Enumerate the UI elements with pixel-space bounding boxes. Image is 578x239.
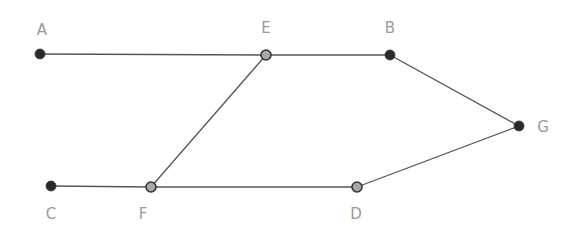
node-F [146, 182, 156, 192]
node-B [385, 50, 395, 60]
node-G [514, 121, 524, 131]
graph-canvas: AEBGCFD [0, 0, 578, 239]
node-label-D: D [350, 205, 362, 223]
edge-F-C [51, 186, 151, 187]
graph-diagram: AEBGCFD [0, 0, 578, 239]
node-C [46, 181, 56, 191]
edges-layer [40, 54, 519, 187]
node-label-F: F [139, 205, 148, 223]
node-label-A: A [37, 21, 48, 39]
node-E [261, 50, 271, 60]
edge-G-D [357, 126, 519, 187]
node-D [352, 182, 362, 192]
node-label-G: G [537, 118, 549, 136]
labels-layer: AEBGCFD [37, 19, 549, 223]
node-A [35, 49, 45, 59]
node-label-B: B [385, 19, 395, 37]
node-label-E: E [261, 19, 270, 37]
edge-B-G [390, 55, 519, 126]
node-label-C: C [46, 205, 56, 223]
edge-F-E [151, 55, 266, 187]
edge-A-E [40, 54, 266, 55]
nodes-layer [35, 49, 524, 192]
